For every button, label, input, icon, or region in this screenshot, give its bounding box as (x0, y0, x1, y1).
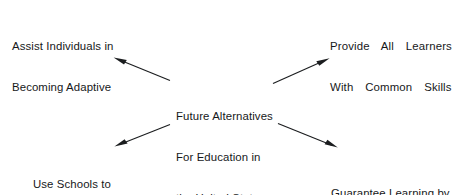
center-node-line-3: the United States (176, 192, 273, 195)
branch-node-use-schools-engineer: Use Schools to Engineer Social Developme… (33, 151, 114, 195)
center-node: Future Alternatives For Education in the… (176, 83, 273, 195)
branch-label-line-1: Guarantee Learning by (331, 187, 462, 195)
arrow-to-top-left (114, 58, 170, 81)
arrow-to-bottom-left (114, 125, 170, 147)
branch-label-line-2: Becoming Adaptive (12, 81, 114, 95)
branch-node-assist-individuals: Assist Individuals in Becoming Adaptive (12, 13, 114, 122)
branch-label-line-2: With Common Skills (330, 81, 452, 95)
arrow-to-bottom-right (278, 124, 338, 148)
diagram-canvas: Future Alternatives For Education in the… (0, 0, 469, 195)
center-node-line-2: For Education in (176, 151, 273, 165)
branch-node-guarantee-learning: Guarantee Learning by Whatever Means Nee… (331, 160, 462, 195)
arrow-to-top-right (273, 58, 330, 83)
branch-label-line-1: Provide All Learners (330, 40, 452, 54)
branch-node-provide-all-learners: Provide All Learners With Common Skills (330, 13, 452, 122)
center-node-line-1: Future Alternatives (176, 110, 273, 124)
branch-label-line-1: Use Schools to (33, 178, 114, 192)
branch-label-line-1: Assist Individuals in (12, 40, 114, 54)
